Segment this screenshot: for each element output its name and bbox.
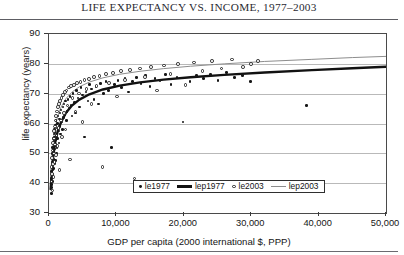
legend-item-label: lep2003 <box>289 182 319 191</box>
data-point-le2003 <box>92 75 96 79</box>
data-point-le2003 <box>60 135 64 139</box>
data-point-le2003 <box>55 110 59 114</box>
data-point-le2003 <box>50 156 54 160</box>
data-point-le2003 <box>184 83 188 87</box>
y-axis-label: life expectancy (years) <box>20 19 31 169</box>
open-circle-marker-icon <box>232 185 236 189</box>
data-point-le1977 <box>120 86 123 89</box>
figure-title-text: LIFE EXPECTANCY VS. INCOME, 1977–2003 <box>81 1 317 13</box>
data-point-le2003 <box>230 58 234 62</box>
data-point-le2003 <box>210 59 214 63</box>
data-point-le1977 <box>93 98 96 101</box>
y-axis-tick-mark <box>44 123 48 124</box>
y-axis-tick-mark <box>44 63 48 64</box>
data-point-le2003 <box>54 153 58 157</box>
filled-dot-marker-icon <box>139 185 142 188</box>
data-point-le1977 <box>195 74 198 77</box>
legend-item-label: le2003 <box>239 182 264 191</box>
data-point-le1977 <box>135 76 138 79</box>
data-point-le2003 <box>79 80 83 84</box>
data-point-le2003 <box>57 126 61 130</box>
x-axis-tick-label: 20,000 <box>153 218 213 228</box>
data-point-le1977 <box>305 104 308 107</box>
data-point-le1977 <box>241 74 244 77</box>
title-rule-top <box>0 19 398 20</box>
x-axis-tick-mark <box>250 212 251 216</box>
data-point-le2003 <box>128 68 132 72</box>
data-point-le2003 <box>52 137 56 141</box>
figure-title: LIFE EXPECTANCY VS. INCOME, 1977–2003 <box>0 0 398 15</box>
data-point-le1977 <box>99 82 102 85</box>
data-point-le2003 <box>256 59 260 63</box>
data-point-le2003 <box>58 168 62 172</box>
data-point-le1977 <box>164 73 167 76</box>
y-axis-tick-mark <box>44 182 48 183</box>
thin-line-swatch-icon <box>271 186 286 187</box>
y-axis-tick-mark <box>44 33 48 34</box>
data-point-le1977 <box>107 89 110 92</box>
data-point-le1977 <box>159 79 162 82</box>
y-axis-tick-label: 40 <box>12 177 40 186</box>
data-point-le2003 <box>54 114 58 118</box>
x-axis-tick-mark <box>183 212 184 216</box>
data-point-le1977 <box>56 137 59 140</box>
y-axis-tick-mark <box>44 93 48 94</box>
figure-rule-bottom <box>0 251 398 252</box>
y-axis-tick-label: 30 <box>12 207 40 216</box>
data-point-le1977 <box>57 130 60 133</box>
x-axis-tick-mark <box>318 212 319 216</box>
x-axis-tick-label: 50,000 <box>355 218 404 228</box>
chart-legend: le1977lep1977le2003lep2003 <box>133 180 325 193</box>
legend-item-le2003[interactable]: le2003 <box>232 182 264 191</box>
data-point-le1977 <box>249 80 252 83</box>
data-point-le2003 <box>68 158 72 162</box>
data-point-le2003 <box>138 67 142 71</box>
data-point-le2003 <box>98 74 102 78</box>
data-point-le1977 <box>68 107 71 110</box>
data-point-le2003 <box>249 62 253 66</box>
data-point-le2003 <box>90 102 94 106</box>
legend-item-label: lep1977 <box>195 182 225 191</box>
data-point-le1977 <box>73 101 76 104</box>
data-point-le1977 <box>102 92 105 95</box>
thick-line-swatch-icon <box>177 185 192 188</box>
data-point-le2003 <box>104 72 108 76</box>
data-point-le1977 <box>209 73 212 76</box>
legend-item-label: le1977 <box>145 182 170 191</box>
data-point-le2003 <box>176 62 180 66</box>
data-point-le1977 <box>225 71 228 74</box>
x-axis-tick-label: 0 <box>18 218 78 228</box>
chart-plot-area: le1977lep1977le2003lep2003 <box>48 33 387 214</box>
data-point-le1977 <box>83 136 86 139</box>
data-point-le2003 <box>62 111 66 115</box>
data-point-le2003 <box>101 165 105 169</box>
legend-item-lep2003[interactable]: lep2003 <box>271 182 319 191</box>
data-point-le1977 <box>131 80 134 83</box>
data-point-le2003 <box>162 64 166 68</box>
data-point-le2003 <box>115 95 119 99</box>
data-point-le1977 <box>113 83 116 86</box>
x-axis-tick-label: 40,000 <box>288 218 348 228</box>
y-axis-tick-mark <box>44 152 48 153</box>
x-axis-tick-label: 30,000 <box>220 218 280 228</box>
data-point-le2003 <box>87 77 91 81</box>
data-point-le2003 <box>192 61 196 65</box>
legend-item-lep1977[interactable]: lep1977 <box>177 182 225 191</box>
data-point-le1977 <box>65 119 68 122</box>
data-point-le1977 <box>50 192 53 195</box>
x-axis-label: GDP per capita (2000 international $, PP… <box>0 236 398 247</box>
data-point-le1977 <box>88 83 91 86</box>
legend-item-le1977[interactable]: le1977 <box>139 182 170 191</box>
data-point-le2003 <box>59 119 63 123</box>
x-axis-tick-mark <box>385 212 386 216</box>
data-point-le2003 <box>123 78 127 82</box>
data-point-le1977 <box>117 79 120 82</box>
data-point-le2003 <box>111 71 115 75</box>
data-point-le2003 <box>241 65 245 69</box>
data-point-le1977 <box>149 85 152 88</box>
x-axis-tick-mark <box>115 212 116 216</box>
data-point-le2003 <box>52 129 56 133</box>
data-point-le2003 <box>56 144 60 148</box>
data-point-le1977 <box>110 146 113 149</box>
